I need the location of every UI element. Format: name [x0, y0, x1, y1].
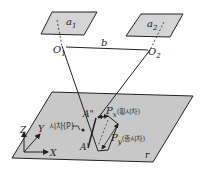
z-axis-label: Z [19, 125, 27, 135]
parallax-diagram: a1 a2 O1 O2 b A" A' Px(횡시차) Py(종시차) 시차(P… [0, 0, 202, 181]
y-axis-label: Y [38, 124, 45, 134]
plane-label: r [145, 150, 150, 160]
a-prime-label: A' [79, 142, 89, 152]
o2-label: O2 [148, 46, 161, 60]
x-axis-label: X [49, 148, 57, 158]
a-double-prime-label: A" [82, 109, 94, 119]
parallax-label: 시차(P) [49, 122, 74, 131]
o1-label: O1 [53, 44, 66, 58]
baseline-label: b [101, 37, 107, 48]
